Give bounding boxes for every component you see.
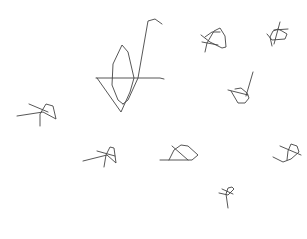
- canvas-background: [0, 0, 307, 239]
- sketch-canvas: [0, 0, 307, 239]
